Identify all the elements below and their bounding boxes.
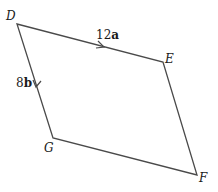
vertex-label-d: D [5,9,16,23]
edge-de-coef: 12 [96,28,111,42]
edge-dg-coef: 8 [16,76,24,90]
edge-dg-vector: b [24,76,32,90]
edge-de-vector: a [111,28,119,42]
vertex-label-g: G [44,141,54,155]
vertex-label-e: E [164,52,174,66]
arrow-dg-icon [33,80,41,87]
parallelogram-diagram: D E F G 12a 8b [0,0,218,192]
edge-label-de: 12a [96,28,119,42]
edge-label-dg: 8b [16,76,32,90]
vertex-label-f: F [198,171,208,185]
